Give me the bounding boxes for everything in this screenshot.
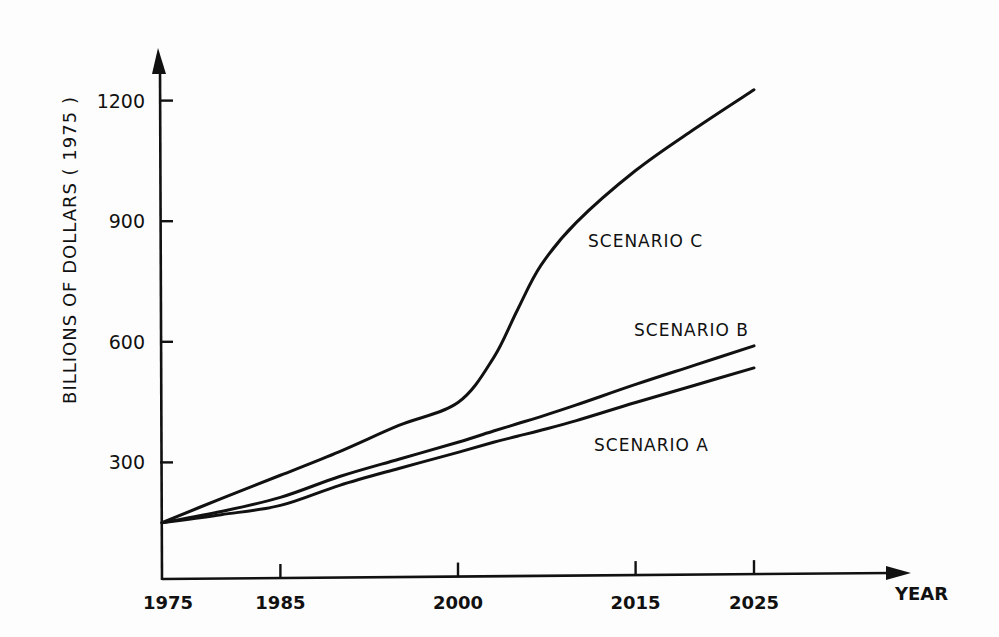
x-tick-label: 2025 xyxy=(729,592,779,613)
x-axis-title: YEAR xyxy=(894,583,948,604)
series-label-c: SCENARIO C xyxy=(588,231,703,251)
series-label-a: SCENARIO A xyxy=(594,435,709,455)
x-tick-label: 2015 xyxy=(611,592,661,613)
y-axis-arrow-icon xyxy=(152,48,166,74)
y-tick-label: 300 xyxy=(109,451,145,473)
series-label-b: SCENARIO B xyxy=(634,320,749,340)
x-tick-label: 1975 xyxy=(143,592,193,613)
y-tick-label: 900 xyxy=(109,210,145,232)
chart-area: 3006009001200 19751985200020152025 BILLI… xyxy=(0,0,999,637)
x-axis xyxy=(162,573,892,579)
series-line-scenario-c xyxy=(162,90,754,523)
x-tick-label: 1985 xyxy=(255,592,305,613)
y-tick-label: 600 xyxy=(109,331,145,353)
x-tick-label: 2000 xyxy=(433,592,483,613)
y-axis xyxy=(160,66,162,580)
x-axis-arrow-icon xyxy=(886,566,911,580)
x-ticks: 19751985200020152025 xyxy=(143,560,779,613)
y-axis-title: BILLIONS OF DOLLARS ( 1975 ) xyxy=(59,96,80,404)
y-tick-label: 1200 xyxy=(97,90,145,112)
series-lines xyxy=(162,90,754,523)
